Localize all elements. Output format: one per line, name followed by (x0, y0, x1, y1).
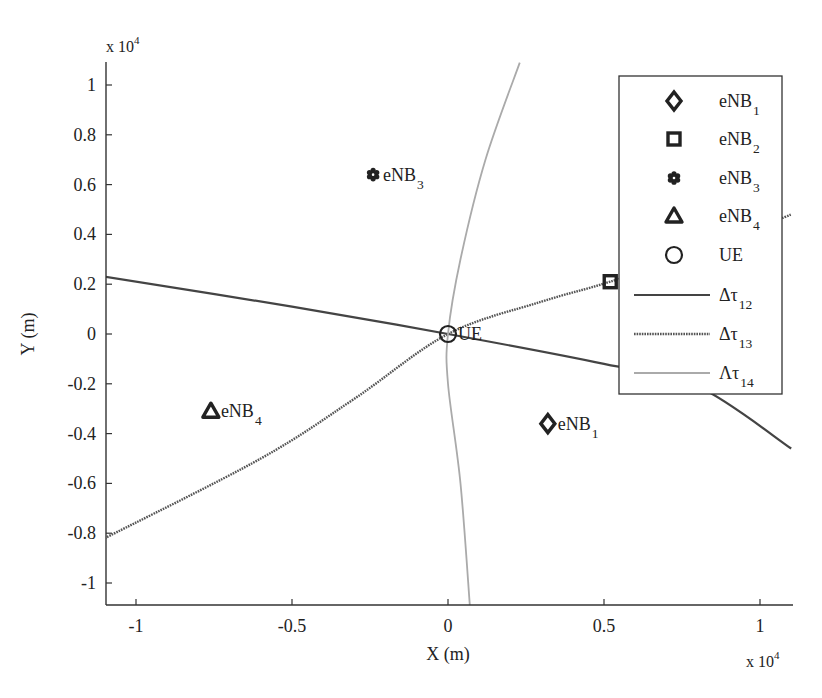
y-tick-label: 0.8 (74, 125, 97, 145)
hexagram-hole (673, 177, 676, 180)
x-tick-label: -1 (129, 616, 144, 636)
y-tick-label: -0.8 (68, 523, 97, 543)
enb3-hexagram-icon (367, 168, 379, 182)
label-main: UE (719, 245, 743, 265)
y-tick-label: -1 (81, 573, 96, 593)
label-subscript: 4 (753, 218, 760, 233)
label-subscript: 3 (753, 180, 760, 195)
legend-box (619, 76, 782, 394)
label-subscript: 13 (739, 336, 753, 351)
x-tick-label: 1 (756, 616, 765, 636)
chart: eNB1eNB2eNB3eNB4UE -1-0.500.51-1-0.8-0.6… (0, 0, 822, 698)
y-tick-label: -0.4 (68, 424, 97, 444)
enb1-diamond-icon (541, 415, 555, 433)
y-tick-label: 0.2 (74, 274, 97, 294)
x-tick-label: 0.5 (593, 616, 616, 636)
label-main: Δτ (719, 285, 738, 305)
enb4-label: eNB4 (221, 401, 262, 428)
x-tick-label: -0.5 (278, 616, 307, 636)
label-subscript: 2 (753, 141, 760, 156)
enb4-triangle-icon (203, 403, 219, 417)
x-axis-label: X (m) (426, 644, 470, 665)
y-tick-label: 0.4 (74, 224, 97, 244)
label-main: Λτ (719, 363, 739, 383)
enb1-label: eNB1 (558, 414, 599, 441)
exponent-base: x 10 (106, 38, 134, 55)
exponent-base: x 10 (746, 653, 774, 670)
exponent-power: 4 (774, 649, 780, 661)
label-main: eNB (719, 168, 752, 188)
exponent-power: 4 (134, 34, 140, 46)
label-main: UE (458, 324, 482, 344)
label-main: eNB (719, 206, 752, 226)
x-tick-label: 0 (444, 616, 453, 636)
label-main: eNB (719, 129, 752, 149)
y-tick-label: 0 (87, 324, 96, 344)
legend: eNB1eNB2eNB3eNB4UEΔτ12Δτ13Λτ14 (619, 76, 782, 394)
y-axis-label: Y (m) (18, 313, 39, 356)
label-subscript: 4 (255, 413, 262, 428)
label-subscript: 1 (592, 426, 599, 441)
ue-label: UE (458, 324, 482, 344)
label-main: eNB (558, 414, 591, 434)
label-main: eNB (383, 165, 416, 185)
label-main: Δτ (719, 324, 738, 344)
enb3-label: eNB3 (383, 165, 424, 192)
y-tick-label: 1 (87, 75, 96, 95)
label-subscript: 3 (417, 177, 424, 192)
label-main: eNB (221, 401, 254, 421)
y-tick-label: 0.6 (74, 175, 97, 195)
label-subscript: 1 (753, 103, 760, 118)
y-axis-multiplier: x 104 (106, 34, 140, 55)
y-tick-label: -0.6 (68, 473, 97, 493)
hexagram-hole (372, 173, 375, 176)
legend-label: UE (719, 245, 743, 265)
x-axis-multiplier: x 104 (746, 649, 780, 670)
label-subscript: 14 (740, 375, 754, 390)
y-tick-label: -0.2 (68, 374, 97, 394)
label-subscript: 12 (739, 297, 753, 312)
label-main: eNB (719, 91, 752, 111)
